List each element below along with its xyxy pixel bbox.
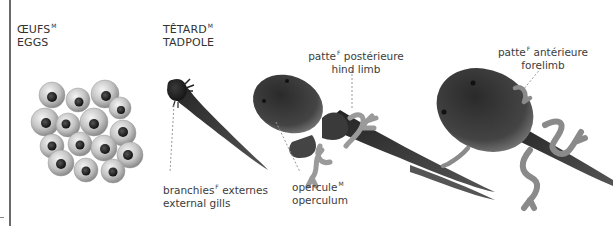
label-fr: opercule	[292, 181, 337, 193]
label-external-gills: branchiesF externes external gills	[163, 181, 268, 209]
young-tadpole	[167, 79, 268, 170]
label-forelimb: patteF antérieure forelimb	[497, 43, 589, 71]
label-fr-suffix: antérieure	[530, 46, 588, 58]
label-en: forelimb	[521, 59, 564, 71]
label-en: external gills	[163, 197, 230, 209]
label-en: hind limb	[332, 63, 381, 75]
gender-mark: M	[338, 180, 343, 187]
label-fr: branchies	[163, 184, 214, 196]
label-hind-limb: patteF postérieure hind limb	[308, 47, 404, 75]
label-fr-suffix: postérieure	[340, 50, 403, 62]
label-fr-suffix: externes	[219, 184, 268, 196]
froglet-forelimbs	[410, 53, 613, 208]
label-en: operculum	[292, 194, 348, 206]
label-fr: patte	[498, 46, 526, 58]
eggs-cluster	[31, 80, 143, 183]
label-fr: patte	[308, 50, 336, 62]
label-operculum: operculeM operculum	[292, 178, 348, 206]
